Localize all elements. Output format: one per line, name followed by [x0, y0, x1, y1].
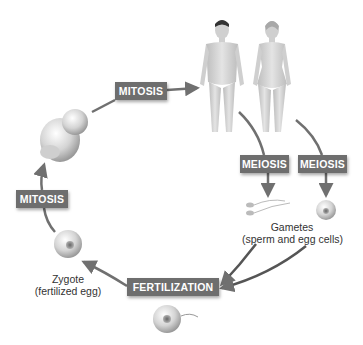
fetus-illustration [40, 109, 88, 162]
zygote-caption: Zygote (fertilized egg) [28, 273, 108, 297]
male-figure [200, 20, 244, 132]
sperm-cells [246, 200, 290, 215]
meiosis-label-male: MEIOSIS [240, 155, 289, 173]
gametes-caption: Gametes (sperm and egg cells) [242, 221, 342, 245]
fertilization-label: FERTILIZATION [127, 278, 219, 296]
zygote-label: Zygote [28, 273, 108, 285]
gametes-sublabel: (sperm and egg cells) [242, 233, 342, 245]
meiosis-label-female: MEIOSIS [298, 155, 347, 173]
zygote-sublabel: (fertilized egg) [28, 285, 108, 297]
female-figure [253, 21, 291, 132]
zygote-cell [54, 230, 82, 258]
egg-cell [316, 200, 336, 220]
mitosis-label-top: MITOSIS [115, 82, 167, 100]
gametes-label: Gametes [242, 221, 342, 233]
mitosis-label-left: MITOSIS [16, 190, 68, 208]
fertilization-egg [153, 305, 198, 333]
